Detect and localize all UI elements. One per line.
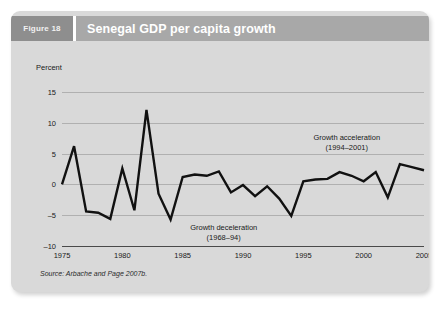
figure-title-block: Senegal GDP per capita growth (73, 16, 429, 41)
figure-number-block: Figure 18 (11, 16, 73, 41)
source-note: Source: Arbache and Page 2007b. (40, 270, 147, 277)
figure-header: Figure 18 Senegal GDP per capita growth (11, 16, 429, 41)
annotation-growth-deceleration: Growth deceleration (1968–94) (190, 223, 257, 243)
figure-title: Senegal GDP per capita growth (87, 22, 276, 36)
annotation-acceleration-line1: Growth acceleration (313, 133, 380, 143)
annotation-deceleration-line2: (1968–94) (190, 233, 257, 243)
annotation-deceleration-line1: Growth deceleration (190, 223, 257, 233)
figure-number-label: Figure 18 (23, 24, 60, 33)
annotation-growth-acceleration: Growth acceleration (1994–2001) (313, 133, 380, 153)
series-line-gdp-growth (62, 110, 424, 220)
annotation-acceleration-line2: (1994–2001) (313, 143, 380, 153)
figure-card: Figure 18 Senegal GDP per capita growth … (11, 11, 429, 292)
chart-plot-area: Percent 151050–5–10 19751980198519901995… (11, 41, 429, 269)
